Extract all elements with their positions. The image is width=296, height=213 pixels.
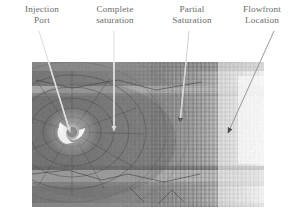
label-line-2: Port [12, 15, 72, 26]
label-complete-saturation: Complete saturation [83, 4, 147, 26]
photo-grain-coarse [32, 62, 264, 207]
label-line-1: Injection [12, 4, 72, 15]
flow-photograph [32, 62, 264, 207]
label-line-2: saturation [83, 15, 147, 26]
label-line-2: Saturation [160, 15, 224, 26]
label-flowfront-location: Flowfront Location [230, 4, 294, 26]
flow-visualization-figure: Injection Port Complete saturation Parti… [0, 0, 296, 213]
label-line-1: Partial [160, 4, 224, 15]
label-line-2: Location [230, 15, 294, 26]
label-partial-saturation: Partial Saturation [160, 4, 224, 26]
label-line-1: Complete [83, 4, 147, 15]
label-line-1: Flowfront [230, 4, 294, 15]
label-injection-port: Injection Port [12, 4, 72, 26]
photograph-content [32, 62, 264, 207]
